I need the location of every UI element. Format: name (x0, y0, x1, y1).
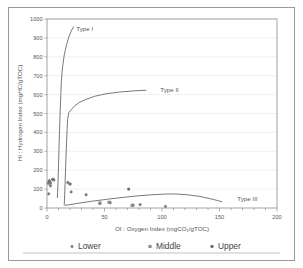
x-tick-label: 200 (272, 214, 281, 220)
y-tick-label: 200 (33, 167, 42, 173)
data-point (127, 187, 130, 190)
curve-label-type-i: Type I (76, 25, 93, 32)
y-tick-label: 0 (39, 205, 42, 211)
data-point (48, 180, 51, 183)
y-axis-ticks: 01002003004005006007008009001000 (30, 16, 47, 211)
data-point (68, 182, 71, 185)
van-krevelen-chart-svg: 01002003004005006007008009001000 0501001… (0, 0, 303, 268)
legend-label-middle[interactable]: Middle (156, 241, 181, 251)
y-tick-label: 800 (33, 54, 42, 60)
y-tick-label: 300 (33, 148, 42, 154)
curve-label-type-iii: Type III (237, 195, 258, 202)
x-axis-ticks: 050100150200 (45, 208, 281, 220)
y-tick-label: 100 (33, 186, 42, 192)
y-tick-label: 500 (33, 111, 42, 117)
curve-label-type-ii: Type II (160, 86, 179, 93)
data-point (108, 201, 111, 204)
x-tick-label: 0 (45, 214, 48, 220)
data-point (51, 178, 54, 181)
legend-marker-lower (70, 245, 74, 249)
legend-label-upper[interactable]: Upper (218, 241, 241, 251)
x-tick-label: 100 (157, 214, 166, 220)
chart-legend: LowerMiddleUpper (70, 241, 241, 251)
legend-marker-upper (210, 245, 213, 248)
legend-label-lower[interactable]: Lower (78, 241, 101, 251)
y-tick-label: 400 (33, 129, 42, 135)
y-tick-label: 700 (33, 73, 42, 79)
y-tick-label: 900 (33, 35, 42, 41)
data-point (98, 202, 101, 205)
x-axis-title: OI : Oxygen Index (mgCO₂/gTOC) (115, 225, 209, 232)
x-tick-label: 50 (101, 214, 107, 220)
x-tick-label: 150 (215, 214, 224, 220)
y-tick-label: 600 (33, 92, 42, 98)
y-tick-label: 1000 (30, 16, 42, 22)
y-axis-title: HI : Hydrogen Index (mgHC/gTOC) (16, 65, 23, 162)
legend-marker-middle (148, 245, 151, 248)
data-point (131, 204, 134, 207)
